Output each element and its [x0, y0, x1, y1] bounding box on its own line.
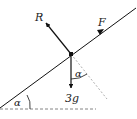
normal-reaction-label: R [34, 11, 43, 24]
particle [69, 52, 73, 56]
applied-force-label: F [97, 16, 106, 29]
normal-reaction-arrow [46, 23, 71, 54]
incline-angle-label: α [14, 97, 21, 108]
weight-label: 3g [65, 92, 79, 105]
particle-angle-label: α [75, 68, 82, 79]
incline-angle-arc [27, 95, 30, 109]
force-diagram: R F 3g α α [0, 0, 137, 119]
